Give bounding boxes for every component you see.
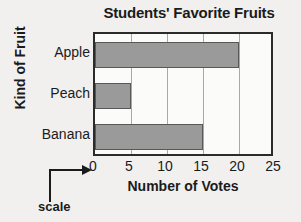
x-axis-tick-label: 5 (114, 158, 144, 174)
bar (95, 42, 239, 68)
gridline (239, 34, 240, 154)
x-axis-label: Number of Votes (93, 178, 273, 194)
x-axis-tick-label: 20 (222, 158, 252, 174)
bar (95, 124, 203, 150)
category-label: Apple (4, 44, 90, 60)
category-label: Banana (4, 126, 90, 142)
chart-title: Students' Favorite Fruits (80, 4, 298, 21)
bar-chart-figure: Students' Favorite Fruits Kind of Fruit … (0, 0, 301, 222)
x-axis-tick-label: 10 (150, 158, 180, 174)
plot-inner (95, 34, 271, 154)
bar (95, 83, 131, 109)
category-label: Peach (4, 85, 90, 101)
plot-area (93, 32, 273, 156)
x-axis-tick-label: 15 (186, 158, 216, 174)
scale-annotation: scale (38, 158, 118, 220)
x-axis-tick-label: 25 (258, 158, 288, 174)
scale-annotation-label: scale (38, 199, 71, 214)
